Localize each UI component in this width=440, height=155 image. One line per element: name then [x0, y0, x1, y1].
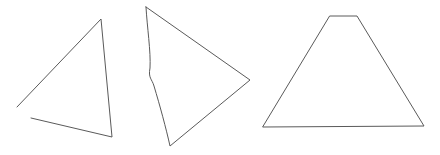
shapes-svg — [0, 0, 440, 155]
canvas-background — [0, 0, 440, 155]
shapes-canvas — [0, 0, 440, 155]
